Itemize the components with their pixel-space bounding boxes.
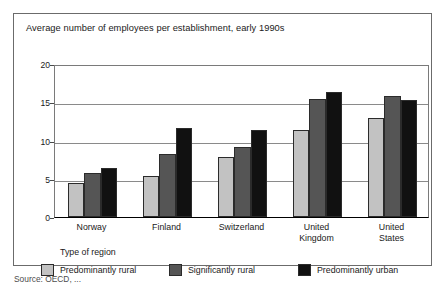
y-axis-tick-label: 10 (40, 137, 50, 147)
y-axis-tick-mark (50, 180, 54, 181)
bar[interactable] (401, 100, 418, 217)
source-caption: Source: OECD, ... (14, 274, 81, 284)
y-axis-tick-mark (50, 103, 54, 104)
x-axis-category-label: UnitedKingdom (279, 222, 354, 243)
x-axis-category-label: UnitedStates (354, 222, 429, 243)
bar[interactable] (234, 147, 251, 217)
legend-label: Predominantly urban (317, 265, 398, 275)
bar[interactable] (84, 173, 101, 217)
plot-area (54, 65, 429, 218)
y-axis-tick-mark (50, 218, 54, 219)
legend-swatch-icon (298, 264, 311, 276)
bar-group (130, 66, 205, 217)
bar[interactable] (101, 168, 118, 217)
chart-figure-frame: Average number of employees per establis… (13, 13, 432, 266)
y-axis-tick-mark (50, 142, 54, 143)
x-axis-category-label-line: Finland (129, 222, 204, 233)
bar[interactable] (326, 92, 343, 217)
bar[interactable] (293, 130, 310, 217)
y-axis-tick-label: 20 (40, 60, 50, 70)
bar[interactable] (368, 118, 385, 217)
x-axis-category-label-line: Kingdom (279, 233, 354, 244)
x-axis-category-label-line: United (354, 222, 429, 233)
chart-title: Average number of employees per establis… (26, 23, 285, 33)
legend-swatch-icon (169, 264, 182, 276)
bar[interactable] (309, 99, 326, 217)
bar[interactable] (143, 176, 160, 217)
legend-label: Significantly rural (188, 265, 255, 275)
legend-item[interactable]: Predominantly urban (298, 263, 398, 277)
bar[interactable] (251, 130, 268, 217)
y-axis-tick-mark (50, 65, 54, 66)
bar[interactable] (176, 128, 193, 217)
bar-group (355, 66, 430, 217)
bar[interactable] (68, 183, 85, 217)
bar-group (55, 66, 130, 217)
legend-item[interactable]: Significantly rural (169, 263, 255, 277)
bar[interactable] (159, 154, 176, 217)
y-axis: 05101520 (28, 65, 50, 218)
bar[interactable] (218, 157, 235, 217)
bar-group (280, 66, 355, 217)
bar[interactable] (384, 96, 401, 217)
y-axis-tick-label: 15 (40, 98, 50, 108)
x-axis-category-label-line: Norway (54, 222, 129, 233)
legend-title: Type of region (60, 247, 116, 257)
x-axis-category-label-line: Switzerland (204, 222, 279, 233)
bar-group (205, 66, 280, 217)
x-axis-category-label: Norway (54, 222, 129, 233)
x-axis-category-label: Finland (129, 222, 204, 233)
x-axis-category-label-line: United (279, 222, 354, 233)
x-axis-category-label: Switzerland (204, 222, 279, 233)
x-axis-category-label-line: States (354, 233, 429, 244)
